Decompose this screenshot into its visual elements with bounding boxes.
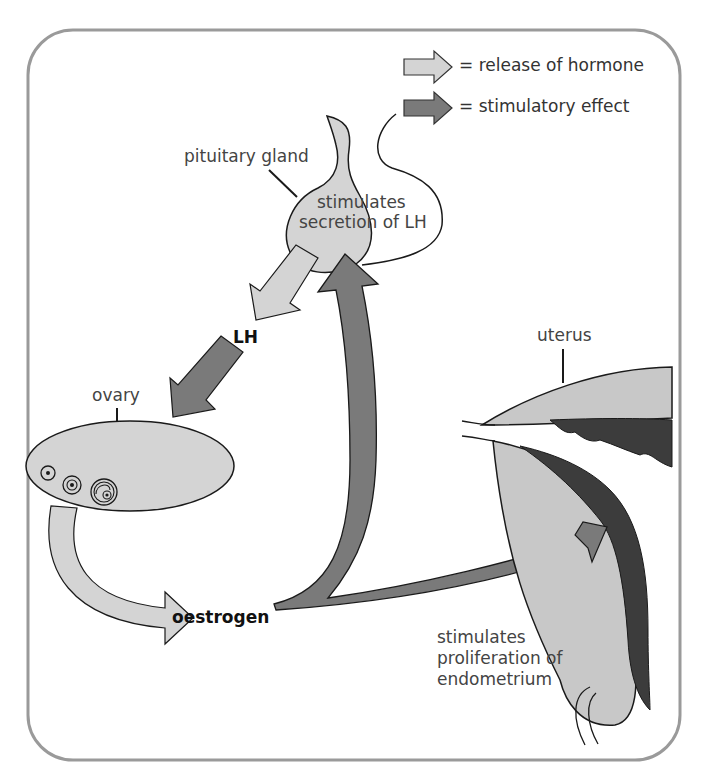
legend-release-label: = release of hormone bbox=[459, 55, 644, 75]
lh-label: LH bbox=[233, 327, 258, 348]
pituitary-action-line1: stimulates bbox=[317, 192, 406, 213]
uterus-action-line3: endometrium bbox=[437, 669, 552, 690]
pituitary-action-line2: secretion of LH bbox=[299, 212, 427, 233]
legend-stimulatory-label: = stimulatory effect bbox=[459, 96, 630, 116]
pituitary-label: pituitary gland bbox=[184, 146, 309, 167]
ovary-label: ovary bbox=[92, 385, 140, 406]
uterus-label: uterus bbox=[537, 325, 592, 346]
oestrogen-label: oestrogen bbox=[172, 607, 269, 628]
uterus-action-line2: proliferation of bbox=[437, 648, 562, 669]
ovary bbox=[26, 421, 234, 511]
uterus-action-line1: stimulates bbox=[437, 627, 526, 648]
